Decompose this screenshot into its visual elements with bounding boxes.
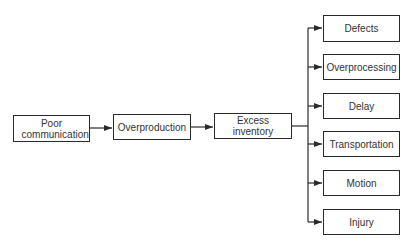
node-transportation: Transportation	[323, 131, 400, 157]
node-injury: Injury	[323, 209, 400, 235]
node-label: Transportation	[329, 139, 393, 150]
node-motion: Motion	[323, 170, 400, 196]
node-label: Motion	[346, 178, 376, 189]
node-label: Poor communication	[22, 118, 82, 140]
node-label: Delay	[349, 101, 375, 112]
node-overproduction: Overproduction	[113, 114, 191, 140]
node-label: Overproduction	[118, 122, 186, 133]
node-defects: Defects	[323, 15, 400, 42]
node-label: Injury	[349, 217, 373, 228]
node-delay: Delay	[323, 93, 400, 119]
node-label: Overprocessing	[326, 62, 396, 73]
node-label: Defects	[345, 23, 379, 34]
node-label: Excess inventory	[228, 115, 278, 137]
node-excess-inventory: Excess inventory	[214, 113, 292, 139]
node-overprocessing: Overprocessing	[323, 54, 400, 80]
node-poor-communication: Poor communication	[13, 115, 90, 142]
